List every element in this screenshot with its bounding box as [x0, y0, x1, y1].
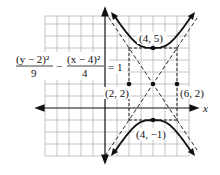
- x-axis-left-arrow-icon: [36, 105, 44, 111]
- equation-numerator-2: (x − 4)²: [67, 53, 101, 66]
- equation-denominator-1: 9: [31, 67, 37, 79]
- covertex-right-dot: [175, 82, 180, 87]
- vertex-upper-dot: [151, 46, 156, 51]
- equation-minus: −: [56, 60, 62, 72]
- equation-denominator-2: 4: [82, 67, 88, 79]
- vertex-lower-label: (4, −1): [136, 128, 166, 141]
- x-axis-label: x: [202, 102, 208, 114]
- covertex-left-label: (2, 2): [105, 87, 129, 100]
- x-axis-right-arrow-icon: [190, 105, 198, 111]
- vertex-lower-dot: [151, 118, 156, 123]
- covertex-right-label: (6, 2): [180, 87, 204, 100]
- covertex-left-dot: [127, 82, 132, 87]
- equation-equals: = 1: [108, 61, 122, 73]
- vertex-upper-label: (4, 5): [139, 32, 163, 45]
- y-axis-down-arrow-icon: [102, 155, 108, 163]
- center-dot: [151, 82, 156, 87]
- equation-numerator-1: (y − 2)²: [16, 53, 50, 66]
- hyperbola-diagram: x (4, 5) (4, −1) (2, 2): [0, 0, 220, 175]
